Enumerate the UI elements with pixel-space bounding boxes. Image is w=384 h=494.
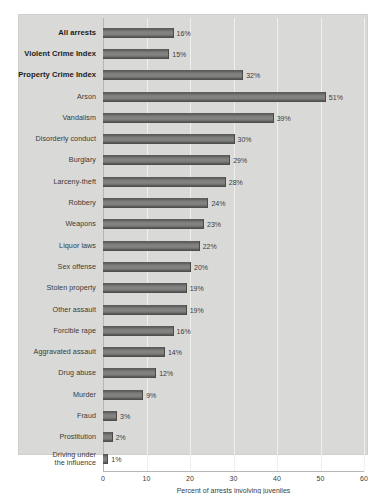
bar-row: Prostitution2% — [18, 427, 368, 448]
bar-category-label: Liquor laws — [18, 241, 96, 249]
bar — [103, 454, 108, 464]
bar-category-label: Disorderly conduct — [18, 135, 96, 143]
bar — [103, 241, 200, 251]
x-tick-label-40: 40 — [273, 475, 281, 482]
bar — [103, 262, 191, 272]
bar-category-label: All arrests — [18, 28, 96, 36]
bar-category-label: Property Crime Index — [18, 71, 96, 79]
bar-container: 3% — [103, 411, 368, 421]
bar-container: 39% — [103, 113, 368, 123]
bar-row: Larceny-theft28% — [18, 171, 368, 192]
bar — [103, 219, 204, 229]
bar-row: Disorderly conduct30% — [18, 129, 368, 150]
bar-category-label: Violent Crime Index — [18, 50, 96, 58]
bar-category-label: Forcible rape — [18, 327, 96, 335]
bar-category-label: Drug abuse — [18, 369, 96, 377]
bar-row: Forcible rape16% — [18, 320, 368, 341]
bar-value-label: 19% — [190, 285, 204, 292]
bar — [103, 70, 243, 80]
bar — [103, 113, 274, 123]
bar-row: Fraud3% — [18, 405, 368, 426]
x-axis-title: Percent of arrests involving juveniles — [103, 487, 364, 494]
bar-container: 16% — [103, 326, 368, 336]
bar-container: 28% — [103, 177, 368, 187]
bar — [103, 432, 113, 442]
bar-value-label: 15% — [172, 50, 186, 57]
chart-panel: All arrests16%Violent Crime Index15%Prop… — [18, 14, 368, 455]
bar-container: 19% — [103, 305, 368, 315]
bar-value-label: 2% — [116, 434, 126, 441]
bar-category-label: Aggravated assault — [18, 348, 96, 356]
bar-value-label: 16% — [177, 327, 191, 334]
bar-category-label: Prostitution — [18, 433, 96, 441]
bar-value-label: 32% — [246, 72, 260, 79]
bar-container: 20% — [103, 262, 368, 272]
bar-row: Drug abuse12% — [18, 363, 368, 384]
bar-category-label: Robbery — [18, 199, 96, 207]
x-tick-label-60: 60 — [360, 475, 368, 482]
bar — [103, 368, 156, 378]
bar — [103, 155, 230, 165]
x-tick-label-50: 50 — [317, 475, 325, 482]
bar — [103, 28, 174, 38]
bar-category-label: Other assault — [18, 305, 96, 313]
bar-value-label: 23% — [207, 221, 221, 228]
bar-value-label: 20% — [194, 263, 208, 270]
bar-value-label: 22% — [203, 242, 217, 249]
bar-value-label: 19% — [190, 306, 204, 313]
bar-container: 22% — [103, 241, 368, 251]
bar-container: 23% — [103, 219, 368, 229]
bar-category-label: Stolen property — [18, 284, 96, 292]
x-tick-label-20: 20 — [186, 475, 194, 482]
x-axis-line — [103, 471, 364, 472]
bar — [103, 411, 117, 421]
bar-container: 1% — [103, 454, 368, 464]
bar-category-label: Weapons — [18, 220, 96, 228]
bar-container: 15% — [103, 49, 368, 59]
bar — [103, 326, 174, 336]
bar-value-label: 3% — [120, 413, 130, 420]
bar-value-label: 14% — [168, 349, 182, 356]
bar-container: 9% — [103, 390, 368, 400]
bar-category-label: Murder — [18, 391, 96, 399]
bar-row: Driving underthe influence1% — [18, 448, 368, 469]
bar-value-label: 29% — [233, 157, 247, 164]
bar-container: 24% — [103, 198, 368, 208]
bar-value-label: 24% — [211, 200, 225, 207]
bar — [103, 305, 187, 315]
bar — [103, 177, 226, 187]
bar-container: 12% — [103, 368, 368, 378]
bar-container: 30% — [103, 134, 368, 144]
bar-row: Burglary29% — [18, 150, 368, 171]
bar-container: 14% — [103, 347, 368, 357]
bar-row: Weapons23% — [18, 214, 368, 235]
bar-value-label: 1% — [111, 455, 121, 462]
x-tick-label-0: 0 — [101, 475, 105, 482]
bar-category-label: Driving underthe influence — [18, 450, 96, 466]
bar-category-label: Fraud — [18, 412, 96, 420]
bar-row: Property Crime Index32% — [18, 65, 368, 86]
bar-row: Vandalism39% — [18, 107, 368, 128]
bar — [103, 283, 187, 293]
bar-container: 2% — [103, 432, 368, 442]
bar — [103, 198, 208, 208]
bar-container: 29% — [103, 155, 368, 165]
bar-row: Stolen property19% — [18, 278, 368, 299]
bar-category-label: Vandalism — [18, 114, 96, 122]
bar-value-label: 12% — [159, 370, 173, 377]
bar-category-label: Larceny-theft — [18, 178, 96, 186]
bar-row: Other assault19% — [18, 299, 368, 320]
bar-row: Robbery24% — [18, 192, 368, 213]
bar-row: Murder9% — [18, 384, 368, 405]
x-tick-label-10: 10 — [143, 475, 151, 482]
bar — [103, 347, 165, 357]
bar-category-label: Arson — [18, 92, 96, 100]
bar-value-label: 16% — [177, 29, 191, 36]
bar-category-label: Sex offense — [18, 263, 96, 271]
bar — [103, 92, 326, 102]
bar-category-label: Burglary — [18, 156, 96, 164]
bar-value-label: 9% — [146, 391, 156, 398]
bar-row: All arrests16% — [18, 22, 368, 43]
bar — [103, 134, 235, 144]
